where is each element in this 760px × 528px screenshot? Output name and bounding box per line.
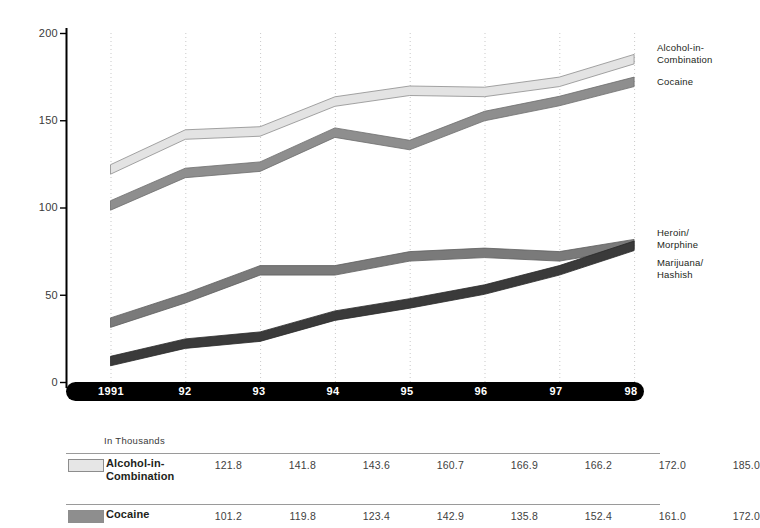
x-tick-label-92: 92 bbox=[155, 383, 215, 400]
cell-alcohol-96: 166.2 bbox=[560, 459, 612, 471]
series-callout-heroin-line2: Morphine bbox=[657, 239, 698, 251]
cell-cocaine-1991: 101.2 bbox=[190, 510, 242, 522]
cell-alcohol-97: 172.0 bbox=[634, 459, 686, 471]
y-tick-label-0: 0 bbox=[24, 376, 58, 388]
units-label: In Thousands bbox=[104, 435, 165, 446]
cell-cocaine-93: 123.4 bbox=[338, 510, 390, 522]
legend-swatch-alcohol bbox=[68, 459, 104, 472]
cell-alcohol-98: 185.0 bbox=[708, 459, 760, 471]
legend-swatch-cocaine bbox=[68, 510, 104, 523]
cell-alcohol-92: 141.8 bbox=[264, 459, 316, 471]
series-callout-cocaine-line1: Cocaine bbox=[657, 76, 693, 88]
cell-alcohol-94: 160.7 bbox=[412, 459, 464, 471]
row-divider bbox=[66, 504, 660, 505]
x-tick-label-95: 95 bbox=[377, 383, 437, 400]
table-row: Cocaine 101.2 119.8 123.4 142.9 135.8 15… bbox=[66, 504, 660, 528]
x-tick-label-94: 94 bbox=[303, 383, 363, 400]
series-band-alcohol-in-combination bbox=[111, 54, 635, 174]
x-tick-label-93: 93 bbox=[229, 383, 289, 400]
cell-cocaine-96: 152.4 bbox=[560, 510, 612, 522]
series-callout-alcohol: Alcohol-in- Combination bbox=[657, 42, 713, 65]
y-tick-label-100: 100 bbox=[24, 201, 58, 213]
x-tick-label-96: 96 bbox=[451, 383, 511, 400]
table-row: Alcohol-in- Combination 121.8 141.8 143.… bbox=[66, 453, 660, 495]
cell-cocaine-92: 119.8 bbox=[264, 510, 316, 522]
series-callout-marijuana: Marijuana/ Hashish bbox=[657, 257, 703, 280]
series-callout-marijuana-line2: Hashish bbox=[657, 269, 703, 281]
y-tick-label-50: 50 bbox=[24, 289, 58, 301]
x-tick-label-1991: 1991 bbox=[81, 383, 141, 400]
series-callout-heroin-line1: Heroin/ bbox=[657, 227, 698, 239]
row-label-alcohol-line2: Combination bbox=[106, 470, 191, 483]
cell-alcohol-1991: 121.8 bbox=[190, 459, 242, 471]
cell-cocaine-95: 135.8 bbox=[486, 510, 538, 522]
row-label-alcohol: Alcohol-in- Combination bbox=[106, 457, 191, 483]
data-table: In Thousands Alcohol-in- Combination 121… bbox=[0, 420, 744, 528]
x-tick-label-97: 97 bbox=[526, 383, 586, 400]
chart-plot-svg bbox=[0, 0, 744, 420]
series-callout-alcohol-line1: Alcohol-in- bbox=[657, 42, 713, 54]
row-label-alcohol-line1: Alcohol-in- bbox=[106, 457, 191, 470]
series-callout-cocaine: Cocaine bbox=[657, 76, 693, 88]
cell-cocaine-97: 161.0 bbox=[634, 510, 686, 522]
x-tick-label-98: 98 bbox=[601, 383, 661, 400]
series-callout-heroin: Heroin/ Morphine bbox=[657, 227, 698, 250]
row-divider bbox=[66, 453, 660, 454]
series-callout-marijuana-line1: Marijuana/ bbox=[657, 257, 703, 269]
row-label-cocaine-line1: Cocaine bbox=[106, 508, 191, 521]
series-callout-alcohol-line2: Combination bbox=[657, 54, 713, 66]
cell-cocaine-98: 172.0 bbox=[708, 510, 760, 522]
y-tick-label-150: 150 bbox=[24, 114, 58, 126]
cell-cocaine-94: 142.9 bbox=[412, 510, 464, 522]
y-tick-label-200: 200 bbox=[24, 27, 58, 39]
cell-alcohol-95: 166.9 bbox=[486, 459, 538, 471]
line-chart: 200 150 100 50 0 1991 92 93 94 95 96 97 … bbox=[0, 0, 744, 420]
series-bands-group bbox=[111, 54, 635, 365]
row-label-cocaine: Cocaine bbox=[106, 508, 191, 521]
cell-alcohol-93: 143.6 bbox=[338, 459, 390, 471]
